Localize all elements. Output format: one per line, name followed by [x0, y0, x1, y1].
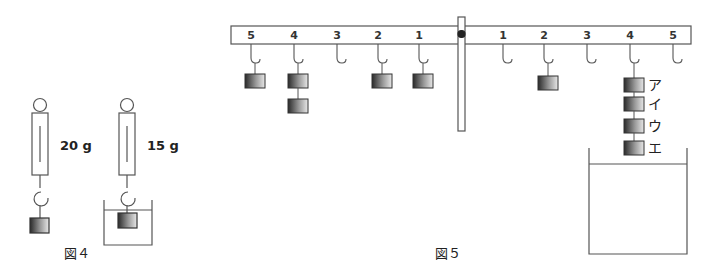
weight-icon — [288, 74, 308, 88]
position-left-3: 3 — [333, 30, 341, 41]
weight-icon — [413, 74, 433, 88]
weight-label-a: ア — [648, 78, 662, 92]
position-left-5: 5 — [247, 30, 255, 41]
scale-reading-air: 20 g — [60, 139, 92, 152]
position-right-5: 5 — [669, 30, 677, 41]
weight-label-e: エ — [648, 141, 662, 155]
figure4-caption: 図４ — [64, 247, 90, 260]
position-left-2: 2 — [374, 30, 382, 41]
water-tank — [589, 148, 687, 254]
weight-e — [624, 141, 644, 155]
diagram-canvas — [0, 0, 716, 272]
weight-icon — [118, 213, 137, 228]
position-left-1: 1 — [415, 30, 423, 41]
weight-a — [624, 78, 644, 92]
hook-icon — [121, 192, 135, 206]
weight-icon — [372, 74, 392, 88]
position-right-3: 3 — [583, 30, 591, 41]
weights — [245, 63, 644, 155]
weight-label-u: ウ — [648, 119, 662, 133]
position-right-2: 2 — [540, 30, 548, 41]
hooks — [251, 44, 682, 63]
spring-scale-air — [30, 99, 49, 234]
weight-label-i: イ — [648, 97, 662, 111]
weight-icon — [538, 76, 558, 90]
position-right-4: 4 — [626, 30, 634, 41]
scale-ring-icon — [121, 99, 134, 112]
weight-i — [624, 97, 644, 111]
weight-u — [624, 119, 644, 133]
hook-icon — [34, 192, 48, 206]
position-right-1: 1 — [499, 30, 507, 41]
weight-icon — [245, 74, 265, 88]
figure5-caption: 図５ — [435, 247, 461, 260]
pivot-icon — [458, 31, 465, 38]
position-left-4: 4 — [290, 30, 298, 41]
scale-ring-icon — [34, 99, 47, 112]
scale-reading-water: 15 g — [147, 139, 179, 152]
weight-icon — [30, 218, 49, 233]
spring-scale-water — [104, 99, 152, 246]
weight-icon — [288, 99, 308, 113]
